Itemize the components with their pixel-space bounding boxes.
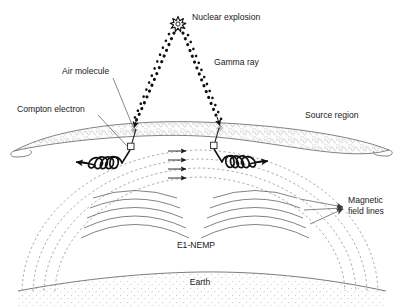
source-region-band bbox=[10, 115, 395, 171]
air-molecule-leader bbox=[113, 78, 133, 127]
gamma-ray-right-dots bbox=[183, 33, 218, 120]
compton-spiral-left bbox=[82, 157, 122, 169]
compton-stem-left bbox=[122, 150, 130, 163]
magnetic-leader-2 bbox=[304, 208, 343, 210]
label-e1-nemp: E1-NEMP bbox=[177, 240, 215, 250]
compton-spiral-right bbox=[222, 156, 262, 168]
field-direction-arrows bbox=[168, 151, 186, 178]
magnetic-leader-3 bbox=[310, 209, 343, 224]
wave-arc-l4 bbox=[84, 216, 186, 228]
wave-arc-l3 bbox=[87, 208, 183, 219]
compton-marker-right bbox=[211, 142, 217, 148]
source-region-hatch bbox=[10, 115, 395, 171]
magnetic-field-arcs bbox=[22, 150, 378, 291]
label-magnetic-field-lines-2: field lines bbox=[348, 206, 384, 216]
wave-arc-r4 bbox=[204, 216, 306, 228]
wave-arc-r3 bbox=[207, 208, 303, 219]
label-compton-electron: Compton electron bbox=[17, 104, 85, 114]
gamma-ray-beams bbox=[133, 33, 222, 128]
burst-core bbox=[176, 22, 180, 26]
label-source-region: Source region bbox=[305, 110, 359, 120]
label-nuclear-explosion: Nuclear explosion bbox=[192, 12, 261, 22]
label-magnetic-field-lines-1: Magnetic bbox=[348, 195, 384, 205]
label-earth: Earth bbox=[190, 277, 211, 287]
field-arc-1 bbox=[22, 150, 378, 291]
gamma-ray-left-dots-b bbox=[133, 34, 169, 122]
wave-arc-l1 bbox=[93, 191, 177, 199]
nuclear-explosion-icon bbox=[170, 16, 186, 31]
em-wave-fan-right bbox=[201, 191, 309, 239]
compton-marker-left bbox=[128, 143, 134, 149]
gamma-ray-left-dots bbox=[136, 33, 174, 121]
wave-arc-l5 bbox=[81, 225, 189, 239]
label-gamma-ray: Gamma ray bbox=[214, 57, 260, 67]
em-wave-fan-left bbox=[81, 191, 189, 239]
wave-arc-l2 bbox=[90, 199, 180, 208]
air-molecule-right bbox=[217, 125, 224, 132]
wave-arc-r1 bbox=[213, 191, 297, 199]
wave-arc-r5 bbox=[201, 225, 309, 239]
burst-star-outline bbox=[170, 16, 186, 31]
gamma-ray-right-dots-b bbox=[188, 35, 222, 121]
air-molecule-left bbox=[131, 127, 138, 134]
wave-arc-r2 bbox=[210, 199, 300, 208]
label-air-molecule: Air molecule bbox=[62, 66, 110, 76]
source-region-left-cap bbox=[11, 150, 32, 157]
diagram-canvas: Nuclear explosion Gamma ray Air molecule… bbox=[0, 0, 403, 307]
e1-nemp-diagram: Nuclear explosion Gamma ray Air molecule… bbox=[0, 0, 403, 307]
field-arc-2 bbox=[33, 159, 367, 291]
